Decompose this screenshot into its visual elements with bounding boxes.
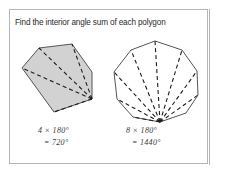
decagon-outline bbox=[114, 41, 198, 122]
hexagon-label-product: 4 × 180° bbox=[38, 126, 69, 135]
outlined-decagon bbox=[114, 41, 198, 122]
hexagon-label-sum: = 720° bbox=[44, 138, 68, 147]
polygon-drawing bbox=[9, 9, 208, 164]
shaded-hexagon bbox=[22, 44, 92, 112]
decagon-label-product: 8 × 180° bbox=[126, 126, 157, 135]
polygon-stage bbox=[9, 9, 208, 164]
hexagon-outline bbox=[22, 44, 92, 112]
worksheet-figure: Find the interior angle sum of each poly… bbox=[0, 0, 225, 179]
decagon-label-sum: = 1440° bbox=[132, 138, 161, 147]
right-margin-rule bbox=[209, 9, 210, 165]
